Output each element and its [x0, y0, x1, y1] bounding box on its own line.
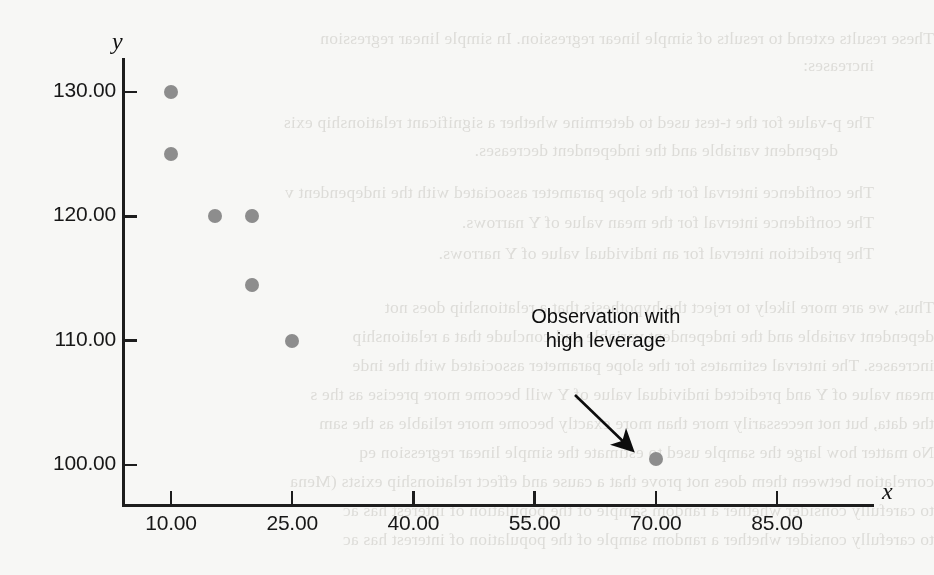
x-axis-tick-label: 10.00 — [111, 511, 231, 535]
annotation-line-2: high leverage — [491, 328, 721, 352]
y-axis-line — [122, 58, 125, 507]
annotation-arrow-icon — [543, 371, 663, 471]
y-axis-tick-label: 120.00 — [12, 202, 116, 226]
x-axis-tick — [170, 491, 173, 505]
scatter-plot-figure: These results extend to results of simpl… — [0, 0, 934, 575]
plot-area: y x 100.00110.00120.00130.00 10.0025.004… — [0, 0, 934, 575]
y-axis-tick-label: 100.00 — [12, 451, 116, 475]
x-axis-line — [122, 504, 874, 507]
leverage-annotation: Observation with high leverage — [491, 304, 721, 353]
data-point — [164, 85, 178, 99]
x-axis-tick — [412, 491, 415, 505]
y-axis-tick — [124, 464, 137, 467]
x-axis-tick-label: 55.00 — [475, 511, 595, 535]
x-axis-tick — [291, 491, 294, 505]
data-point — [285, 334, 299, 348]
x-axis-title: x — [882, 478, 893, 505]
annotation-line-1: Observation with — [491, 304, 721, 328]
y-axis-tick — [124, 91, 137, 94]
x-axis-tick — [776, 491, 779, 505]
data-point — [245, 278, 259, 292]
x-axis-tick-label: 70.00 — [596, 511, 716, 535]
x-axis-tick — [533, 491, 536, 505]
y-axis-tick — [124, 215, 137, 218]
x-axis-tick-label: 85.00 — [717, 511, 837, 535]
y-axis-tick-label: 130.00 — [12, 78, 116, 102]
x-axis-tick-label: 40.00 — [353, 511, 473, 535]
data-point — [164, 147, 178, 161]
y-axis-tick-label: 110.00 — [12, 327, 116, 351]
x-axis-tick — [655, 491, 658, 505]
y-axis-tick — [124, 339, 137, 342]
data-point — [208, 209, 222, 223]
x-axis-tick-label: 25.00 — [232, 511, 352, 535]
y-axis-title: y — [112, 28, 123, 55]
data-point — [245, 209, 259, 223]
